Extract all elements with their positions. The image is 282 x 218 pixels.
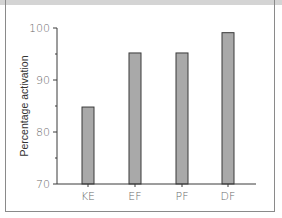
x-tick-label: EF (128, 190, 141, 203)
y-axis: 708090100 (29, 22, 57, 191)
x-tick-label: DF (221, 190, 236, 203)
x-axis: KEEFPFDF (57, 184, 256, 203)
bar-ef (129, 53, 141, 184)
y-tick-label: 70 (36, 178, 50, 191)
bar-chart: 708090100 KEEFPFDF Percentage activation (0, 0, 282, 218)
bars (82, 33, 234, 184)
bar-df (222, 33, 234, 184)
bar-ke (82, 107, 94, 184)
bar-pf (176, 53, 188, 184)
x-tick-label: KE (81, 190, 95, 203)
y-axis-label: Percentage activation (18, 55, 30, 156)
y-tick-label: 80 (36, 126, 50, 139)
y-tick-label: 90 (36, 74, 50, 87)
x-tick-label: PF (176, 190, 189, 203)
y-tick-label: 100 (29, 22, 50, 35)
